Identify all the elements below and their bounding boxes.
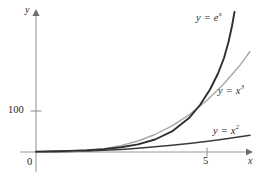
x-axis-label: x <box>248 156 252 166</box>
curve-label-quadratic-base: y = x <box>213 125 236 136</box>
curve-label-quadratic: y = x2 <box>213 124 239 136</box>
curve-label-exponential-base: y = e <box>196 12 219 23</box>
x-tick-label-5: 5 <box>203 156 208 167</box>
curve-x-cubed <box>36 52 250 153</box>
curve-e-to-the-x <box>36 12 235 152</box>
curve-label-cubic: y = x3 <box>218 84 244 96</box>
origin-label: 0 <box>27 157 32 168</box>
y-axis-arrowhead <box>32 9 39 16</box>
curve-label-quadratic-exponent: 2 <box>236 123 240 130</box>
curve-label-cubic-base: y = x <box>218 85 241 96</box>
curve-label-exponential-exponent: x <box>219 10 222 17</box>
y-axis-label: y <box>25 5 29 15</box>
curve-label-exponential: y = ex <box>196 11 222 23</box>
curve-label-cubic-exponent: 3 <box>241 83 245 90</box>
y-tick-label-100: 100 <box>8 105 24 116</box>
growth-comparison-figure: y x 100 5 0 y = ex y = x3 y = x2 <box>0 0 264 178</box>
